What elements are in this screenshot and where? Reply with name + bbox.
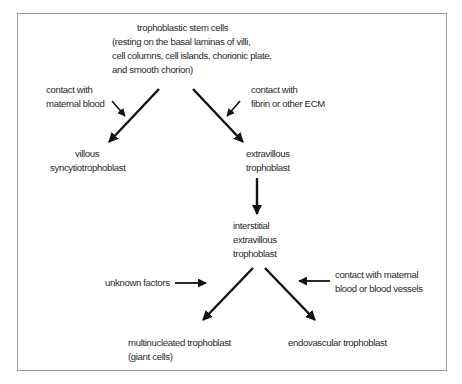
arrows-layer: [0, 0, 462, 384]
arrow-stem-to-villous: [109, 89, 159, 142]
arrow-interstitial-to-multinucleated: [203, 268, 253, 320]
arrow-stem-to-extravillous: [193, 89, 243, 142]
arrow-factor-maternal-blood: [112, 101, 125, 116]
arrow-interstitial-to-endovascular: [265, 268, 315, 320]
arrow-factor-fibrin-ecm: [227, 101, 240, 116]
